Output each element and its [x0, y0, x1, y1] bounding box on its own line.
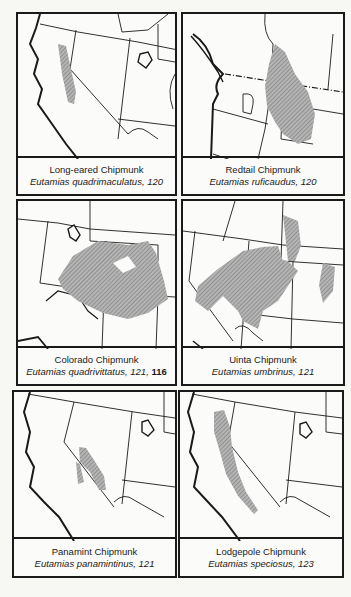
map-panel-uinta-chipmunk: Uinta Chipmunk Eutamias umbrinus, 121	[181, 199, 345, 386]
california-nevada-map	[180, 392, 342, 541]
scientific-name: Eutamias ruficaudus	[209, 176, 295, 187]
page-refs: , 121	[293, 366, 314, 377]
map-panel-redtail-chipmunk: Redtail Chipmunk Eutamias ruficaudus, 12…	[181, 12, 345, 196]
map-caption: Panamint Chipmunk Eutamias panamintinus,…	[14, 537, 175, 576]
scientific-name: Eutamias quadrivittatus	[26, 366, 125, 377]
map-caption: Uinta Chipmunk Eutamias umbrinus, 121	[183, 346, 343, 384]
page-refs: , 121,	[125, 366, 151, 377]
scientific-name-line: Eutamias ruficaudus, 120	[209, 176, 316, 188]
scientific-name: Eutamias speciosus	[208, 558, 292, 569]
map-panel-colorado-chipmunk: Colorado Chipmunk Eutamias quadrivittatu…	[16, 199, 177, 386]
page-refs: , 120	[142, 176, 163, 187]
pacific-northwest-map	[183, 14, 343, 159]
scientific-name: Eutamias umbrinus	[212, 366, 293, 377]
map-panel-long-eared-chipmunk: Long-eared Chipmunk Eutamias quadrimacul…	[16, 12, 177, 196]
range-map	[183, 14, 343, 159]
page-refs: , 121	[133, 558, 154, 569]
range-map	[180, 392, 342, 541]
common-name: Redtail Chipmunk	[226, 164, 301, 176]
map-caption: Redtail Chipmunk Eutamias ruficaudus, 12…	[183, 156, 343, 194]
scientific-name-line: Eutamias speciosus, 123	[208, 558, 314, 570]
range-map	[183, 201, 343, 349]
map-caption: Long-eared Chipmunk Eutamias quadrimacul…	[18, 156, 175, 194]
range-map	[18, 201, 175, 349]
range-map	[18, 14, 175, 159]
map-panel-panamint-chipmunk: Panamint Chipmunk Eutamias panamintinus,…	[12, 390, 177, 578]
scientific-name-line: Eutamias panamintinus, 121	[35, 558, 155, 570]
common-name: Lodgepole Chipmunk	[216, 546, 306, 558]
common-name: Long-eared Chipmunk	[49, 164, 143, 176]
common-name: Uinta Chipmunk	[229, 354, 297, 366]
page-refs: , 123	[293, 558, 314, 569]
scientific-name-line: Eutamias quadrimaculatus, 120	[30, 176, 163, 188]
scientific-name: Eutamias panamintinus	[35, 558, 134, 569]
map-caption: Lodgepole Chipmunk Eutamias speciosus, 1…	[180, 537, 342, 576]
scientific-name-line: Eutamias quadrivittatus, 121, 116	[26, 366, 167, 378]
four-corners-map	[18, 201, 175, 349]
scientific-name: Eutamias quadrimaculatus	[30, 176, 142, 187]
bold-page-ref: 116	[151, 366, 166, 377]
map-caption: Colorado Chipmunk Eutamias quadrivittatu…	[18, 346, 175, 384]
california-nevada-map	[18, 14, 175, 159]
california-nevada-map	[14, 392, 175, 541]
page-refs: , 120	[295, 176, 316, 187]
great-basin-map	[183, 201, 343, 349]
common-name: Colorado Chipmunk	[55, 354, 139, 366]
common-name: Panamint Chipmunk	[52, 546, 138, 558]
range-map	[14, 392, 175, 541]
scientific-name-line: Eutamias umbrinus, 121	[212, 366, 314, 378]
map-panel-lodgepole-chipmunk: Lodgepole Chipmunk Eutamias speciosus, 1…	[178, 390, 344, 578]
